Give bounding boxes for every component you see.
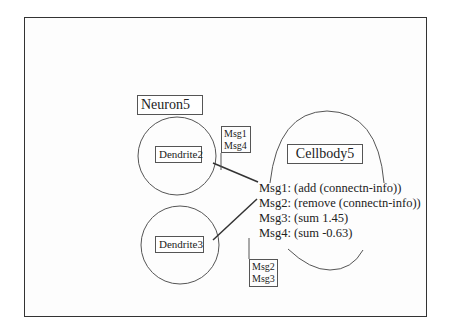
diagram-shapes — [0, 0, 450, 335]
dendrite2-label: Dendrite2 — [155, 146, 202, 163]
message-line: Msg4: (sum -0.63) — [259, 226, 421, 241]
message-tag-item: Msg2 — [252, 261, 275, 273]
cellbody-label: Cellbody5 — [287, 144, 363, 164]
message-tag-bottom: Msg2 Msg3 — [249, 259, 278, 287]
message-list: Msg1: (add (connectn-info)) Msg2: (remov… — [259, 181, 421, 241]
message-line: Msg3: (sum 1.45) — [259, 211, 421, 226]
message-line: Msg2: (remove (connectn-info)) — [259, 196, 421, 211]
neuron-label: Neuron5 — [137, 95, 203, 115]
message-tag-top: Msg1 Msg4 — [221, 126, 251, 153]
connection-line-dendrite2 — [213, 163, 258, 182]
message-tag-item: Msg3 — [252, 273, 275, 285]
message-line: Msg1: (add (connectn-info)) — [259, 181, 421, 196]
dendrite3-label: Dendrite3 — [155, 236, 204, 253]
message-tag-item: Msg1 — [224, 128, 248, 140]
cellbody-bottom-arc — [288, 249, 363, 270]
connection-line-dendrite3 — [213, 199, 257, 240]
message-tag-item: Msg4 — [224, 140, 248, 152]
